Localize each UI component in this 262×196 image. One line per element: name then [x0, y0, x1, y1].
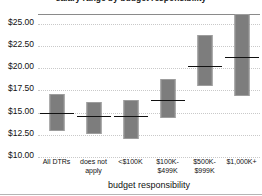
range-bar — [234, 14, 249, 96]
range-bar — [160, 79, 175, 118]
median-line — [114, 116, 148, 117]
y-axis-tick-label: $15.00 — [0, 107, 34, 116]
y-axis-tick-label: $17.50 — [0, 84, 34, 93]
median-line — [40, 113, 74, 114]
median-line — [188, 66, 222, 67]
range-bar — [123, 100, 138, 139]
x-axis-tick-label: $1,000K+ — [223, 158, 260, 167]
chart-container: salary range by budget responsibility $1… — [0, 0, 262, 196]
x-axis-tick-label: $500K- $999K — [186, 158, 223, 175]
bar-group — [223, 0, 260, 196]
x-axis-tick-label: $100K- $499K — [149, 158, 186, 175]
y-axis-tick-label: $20.00 — [0, 62, 34, 71]
x-axis-title: budget responsibility — [38, 180, 260, 190]
bar-group — [112, 0, 149, 196]
x-axis-tick-label: All DTRs — [38, 158, 75, 167]
x-axis-tick-label: does not apply — [75, 158, 112, 175]
range-bar — [197, 35, 212, 86]
bar-group — [38, 0, 75, 196]
y-axis-tick-label: $22.50 — [0, 40, 34, 49]
range-bar — [86, 102, 101, 134]
y-axis-tick-label: $25.00 — [0, 18, 34, 27]
y-axis-tick-label: $10.00 — [0, 151, 34, 160]
median-line — [77, 116, 111, 117]
bottom-divider — [0, 194, 262, 195]
median-line — [151, 100, 185, 101]
median-line — [225, 57, 259, 58]
x-axis-tick-label: <$100K — [112, 158, 149, 167]
y-axis-tick-label: $12.50 — [0, 129, 34, 138]
